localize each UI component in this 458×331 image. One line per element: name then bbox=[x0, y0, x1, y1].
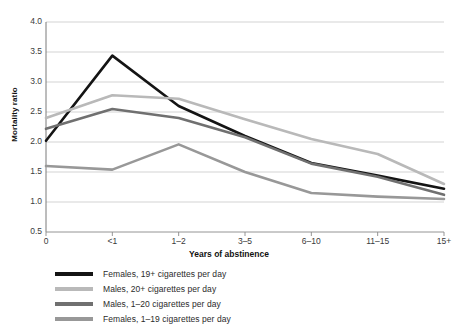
x-tick-label: 0 bbox=[19, 236, 73, 246]
plot-area: 0.51.01.52.02.53.03.54.0 0<11–23–56–1011… bbox=[0, 0, 458, 268]
x-tick-label: 1–2 bbox=[152, 236, 206, 246]
chart-legend: Females, 19+ cigarettes per dayMales, 20… bbox=[55, 266, 455, 326]
y-axis-title: Mortality ratio bbox=[10, 70, 19, 160]
x-axis-title: Years of abstinence bbox=[0, 249, 458, 259]
legend-item[interactable]: Males, 20+ cigarettes per day bbox=[55, 281, 455, 296]
mortality-ratio-line-chart: 0.51.01.52.02.53.03.54.0 0<11–23–56–1011… bbox=[0, 0, 458, 331]
x-tick-label: 15+ bbox=[417, 236, 458, 246]
x-tick-label: 6–10 bbox=[284, 236, 338, 246]
legend-swatch-icon bbox=[55, 317, 93, 321]
x-tick-label: <1 bbox=[85, 236, 139, 246]
legend-label: Females, 1–19 cigarettes per day bbox=[103, 314, 231, 324]
x-axis-tick-labels: 0<11–23–56–1011–1515+ bbox=[0, 0, 458, 268]
legend-label: Females, 19+ cigarettes per day bbox=[103, 269, 226, 279]
legend-swatch-icon bbox=[55, 302, 93, 306]
legend-swatch-icon bbox=[55, 287, 93, 291]
x-tick-label: 11–15 bbox=[351, 236, 405, 246]
legend-label: Males, 20+ cigarettes per day bbox=[103, 284, 216, 294]
legend-item[interactable]: Females, 1–19 cigarettes per day bbox=[55, 311, 455, 326]
x-tick-label: 3–5 bbox=[218, 236, 272, 246]
legend-item[interactable]: Females, 19+ cigarettes per day bbox=[55, 266, 455, 281]
legend-label: Males, 1–20 cigarettes per day bbox=[103, 299, 221, 309]
legend-item[interactable]: Males, 1–20 cigarettes per day bbox=[55, 296, 455, 311]
legend-swatch-icon bbox=[55, 272, 93, 276]
